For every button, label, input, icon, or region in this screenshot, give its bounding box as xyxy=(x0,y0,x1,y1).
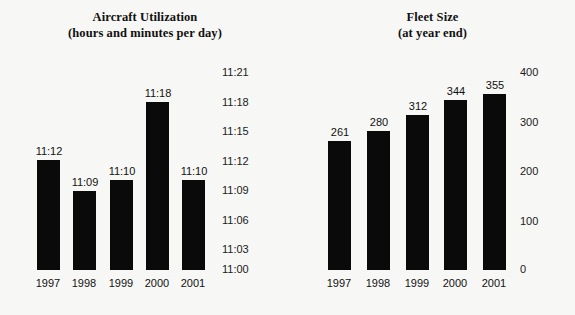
x-label-1998: 1998 xyxy=(359,277,397,289)
y-tick-1112: 11:12 xyxy=(222,155,249,167)
bar-value-1998: 11:09 xyxy=(55,176,115,188)
y-tick-400: 400 xyxy=(520,66,538,78)
x-label-1998: 1998 xyxy=(65,277,103,289)
bar-1999 xyxy=(110,180,133,270)
y-tick-1121: 11:21 xyxy=(222,66,249,78)
x-label-1997: 1997 xyxy=(29,277,67,289)
bar-2001 xyxy=(182,180,205,270)
bar-value-1999: 312 xyxy=(388,100,448,112)
x-label-1999: 1999 xyxy=(398,277,436,289)
bar-value-1997: 11:12 xyxy=(19,145,79,157)
plot-area-fleet-size: 261 280 312 344 355 1997 1998 1999 2000 … xyxy=(290,0,575,315)
y-tick-1100: 11:00 xyxy=(222,263,249,275)
x-label-1997: 1997 xyxy=(320,277,358,289)
bar-value-1998: 280 xyxy=(349,116,409,128)
chart-panel-aircraft-utilization: Aircraft Utilization (hours and minutes … xyxy=(0,0,290,315)
y-tick-1118: 11:18 xyxy=(222,96,249,108)
y-tick-1106: 11:06 xyxy=(222,214,249,226)
y-tick-1115: 11:15 xyxy=(222,125,249,137)
bar-value-2001: 355 xyxy=(465,79,525,91)
x-label-2000: 2000 xyxy=(436,277,474,289)
chart-panel-fleet-size: Fleet Size (at year end) 261 280 312 344… xyxy=(290,0,575,315)
bar-1998 xyxy=(73,191,96,270)
y-tick-0: 0 xyxy=(520,263,526,275)
chart-page: Aircraft Utilization (hours and minutes … xyxy=(0,0,575,315)
x-label-2001: 2001 xyxy=(174,277,212,289)
y-tick-1103: 11:03 xyxy=(222,243,249,255)
bar-2000 xyxy=(146,102,169,270)
x-label-2001: 2001 xyxy=(475,277,513,289)
y-tick-1109: 11:09 xyxy=(222,184,249,196)
bar-1999 xyxy=(406,115,429,270)
bar-1998 xyxy=(367,131,390,270)
bar-value-2000: 11:18 xyxy=(128,87,188,99)
bar-1997 xyxy=(328,141,351,270)
y-tick-300: 300 xyxy=(520,116,538,128)
bar-2000 xyxy=(444,100,467,270)
y-tick-100: 100 xyxy=(520,215,538,227)
bar-2001 xyxy=(483,94,506,270)
plot-area-aircraft-utilization: 11:12 11:09 11:10 11:18 11:10 1997 1998 … xyxy=(0,0,290,315)
bar-value-2001: 11:10 xyxy=(164,165,224,177)
x-label-2000: 2000 xyxy=(138,277,176,289)
bar-value-1999: 11:10 xyxy=(92,165,152,177)
y-tick-200: 200 xyxy=(520,165,538,177)
x-label-1999: 1999 xyxy=(102,277,140,289)
